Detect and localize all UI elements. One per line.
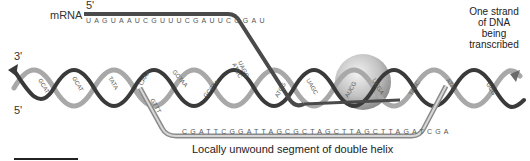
unwound-strand-sequence: CGATTCGGATTAGCGCTAGCTTAGCTTAGATCGA (182, 128, 452, 135)
unwound-segment-caption: Locally unwound segment of double helix (192, 143, 393, 155)
mrna-five-prime-label: 5' (86, 0, 94, 11)
mrna-label: mRNA (50, 9, 82, 21)
template-note-line-3: being (462, 28, 526, 39)
svg-text:GCAT: GCAT (71, 76, 84, 93)
scale-bar (14, 158, 78, 160)
template-note-line-4: transcribed (462, 39, 526, 50)
template-note-line-2: of DNA (462, 17, 526, 28)
svg-text:UAGC: UAGC (305, 78, 319, 97)
template-strand-note: One strand of DNA being transcribed (462, 6, 526, 50)
mrna-strand (84, 14, 304, 105)
template-note-line-1: One strand (462, 6, 526, 17)
dna-three-prime-label: 3' (14, 50, 22, 62)
dna-five-prime-label: 5' (14, 104, 22, 116)
mrna-sequence: UAGUAAUCGUUUCGAUUCGGAU (86, 17, 268, 24)
transcription-diagram: GCAT GCAT TATA CAAA GTTT GCTAA GCCTA UAG… (0, 0, 530, 161)
svg-text:TATA: TATA (107, 76, 119, 91)
